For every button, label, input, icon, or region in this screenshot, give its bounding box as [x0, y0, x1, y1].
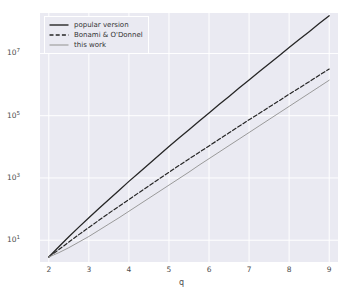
legend-line-sample-bonami-odonnel	[49, 31, 69, 39]
y-tick-label: 105	[0, 112, 20, 120]
x-axis-label: q	[0, 278, 363, 287]
y-tick-label: 107	[0, 49, 20, 57]
y-tick-label: 103	[0, 174, 20, 182]
figure: 101103105107 23456789 q popular version …	[0, 0, 363, 302]
x-tick-label: 5	[157, 266, 181, 274]
x-tick-label: 3	[77, 266, 101, 274]
legend: popular version Bonami & O'Donnel this w…	[44, 16, 149, 54]
y-tick-label: 101	[0, 236, 20, 244]
legend-item: popular version	[49, 20, 143, 30]
legend-item: Bonami & O'Donnel	[49, 30, 143, 40]
legend-label-bonami-odonnel: Bonami & O'Donnel	[74, 32, 143, 39]
x-tick-label: 8	[277, 266, 301, 274]
legend-label-this-work: this work	[74, 42, 106, 49]
x-tick-label: 6	[197, 266, 221, 274]
x-tick-label: 9	[317, 266, 341, 274]
series-line	[49, 80, 329, 257]
legend-line-sample-popular-version	[49, 21, 69, 29]
series-line	[49, 69, 329, 257]
legend-label-popular-version: popular version	[74, 22, 129, 29]
x-tick-label: 7	[237, 266, 261, 274]
x-tick-label: 4	[117, 266, 141, 274]
x-tick-label: 2	[37, 266, 61, 274]
legend-item: this work	[49, 40, 143, 50]
legend-line-sample-this-work	[49, 41, 69, 49]
